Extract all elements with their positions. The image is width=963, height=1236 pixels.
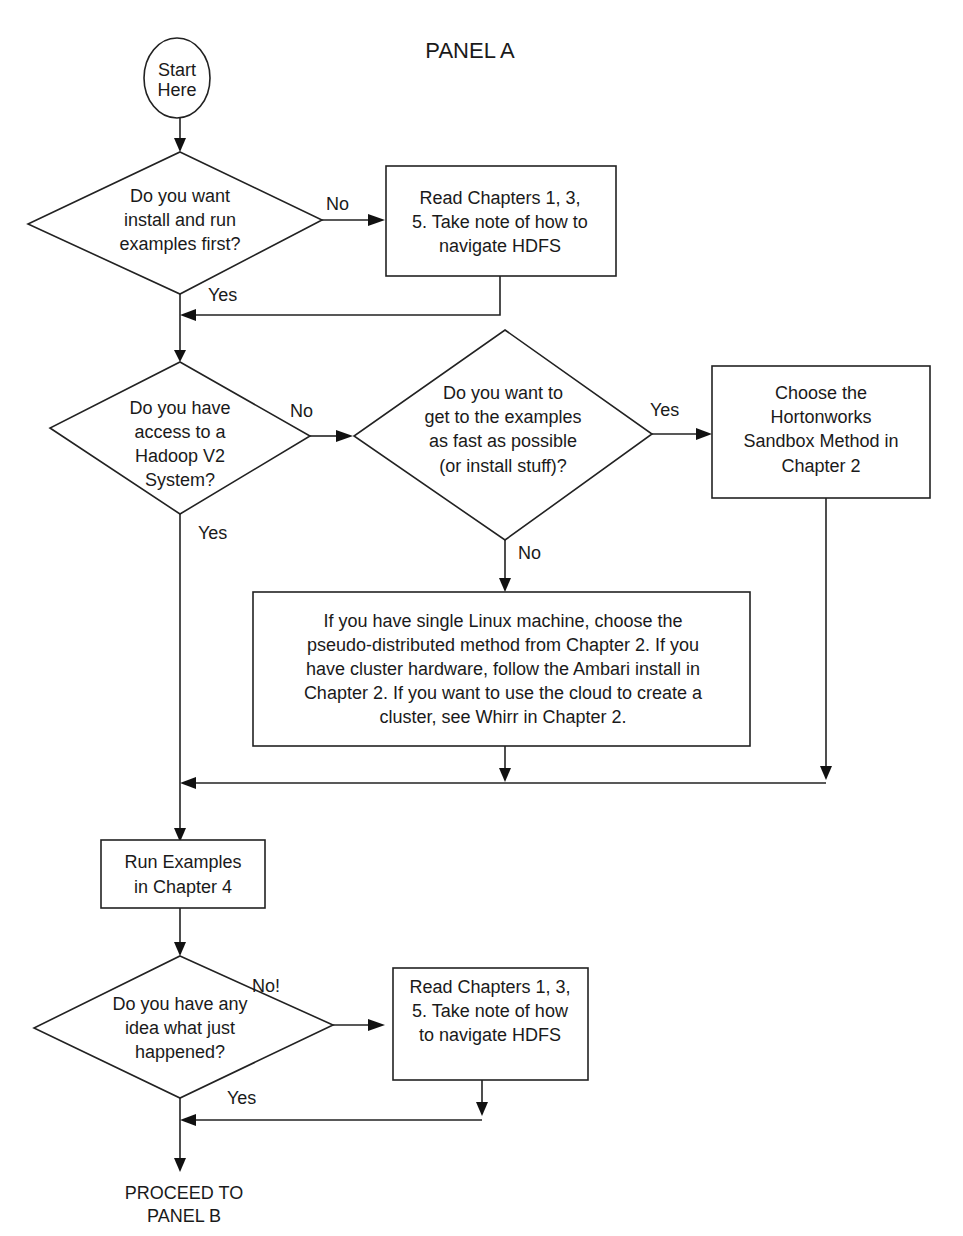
svg-text:Do you wantinstall and runexam: Do you wantinstall and runexamples first…: [119, 186, 240, 254]
decision-install-first: Do you wantinstall and runexamples first…: [28, 152, 322, 294]
process-read-chapters-2: Read Chapters 1, 3,5. Take note of howto…: [393, 968, 588, 1080]
process-install-options: If you have single Linux machine, choose…: [253, 592, 750, 746]
decision-fast: Do you want toget to the examplesas fast…: [354, 330, 652, 540]
panel-title: PANEL A: [425, 38, 515, 63]
decision-idea: Do you have anyidea what justhappened?: [34, 956, 333, 1098]
node-start: StartHere: [144, 38, 210, 118]
svg-text:Read Chapters 1, 3,5. Take not: Read Chapters 1, 3,5. Take note of howto…: [409, 977, 570, 1045]
edge-label-install-no: No: [326, 194, 349, 214]
process-read-chapters-1: Read Chapters 1, 3,5. Take note of how t…: [386, 166, 616, 276]
edge-label-fast-yes: Yes: [650, 400, 679, 420]
process-sandbox: Choose theHortonworksSandbox Method inCh…: [712, 366, 930, 498]
edge-label-fast-no: No: [518, 543, 541, 563]
svg-text:StartHere: StartHere: [157, 60, 196, 100]
decision-access-hadoop: Do you haveaccess to aHadoop V2System?: [50, 362, 310, 514]
edge-label-idea-no: No!: [252, 976, 280, 996]
process-run-examples: Run Examplesin Chapter 4: [101, 840, 265, 908]
edge-label-access-no: No: [290, 401, 313, 421]
edge-label-access-yes: Yes: [198, 523, 227, 543]
svg-text:PROCEED TOPANEL B: PROCEED TOPANEL B: [125, 1183, 243, 1226]
edge-label-idea-yes: Yes: [227, 1088, 256, 1108]
terminal-proceed-panel-b: PROCEED TOPANEL B: [125, 1183, 243, 1226]
edge-label-install-yes: Yes: [208, 285, 237, 305]
flowchart-canvas: PANEL A: [0, 0, 963, 1236]
